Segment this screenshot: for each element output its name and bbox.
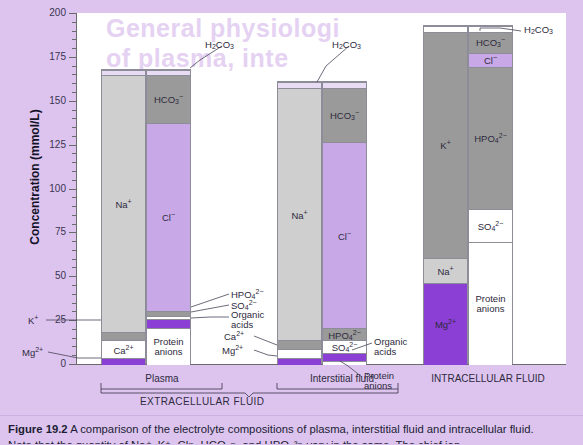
y-tick-label: 200 <box>26 7 66 18</box>
segment-mg <box>278 358 321 365</box>
y-axis-title: Concentration (mmol/L) <box>28 57 42 297</box>
segment-cl: Cl− <box>147 123 190 311</box>
segment-hco <box>424 26 467 31</box>
y-tick-major <box>69 145 77 146</box>
callout-plasma-organic-acids: Organic acids <box>231 310 285 331</box>
y-tick-major <box>69 276 77 277</box>
segment-hpo: HPO42− <box>469 67 512 209</box>
bar-plasma-anions: ProteinanionsCl−HCO3− <box>146 69 191 364</box>
y-tick-minor <box>72 83 77 84</box>
y-tick-major <box>69 101 77 102</box>
callout-plasma-mg: Mg2+ <box>22 346 43 358</box>
y-tick-minor <box>72 355 77 356</box>
y-tick-major <box>69 320 77 321</box>
y-tick-minor <box>72 329 77 330</box>
segment-label: Na+ <box>437 265 453 277</box>
y-tick-minor <box>72 206 77 207</box>
segment-mg <box>102 358 145 365</box>
y-tick-minor <box>72 259 77 260</box>
y-tick-major <box>69 232 77 233</box>
y-tick-minor <box>72 66 77 67</box>
segment-proteinanions: Proteinanions <box>147 328 190 365</box>
segment-cl: Cl− <box>323 142 366 328</box>
figure-19-2: General physiologi of plasma, inte pl 02… <box>0 0 583 410</box>
y-tick-minor <box>72 285 77 286</box>
segment-label: SO42− <box>478 220 504 232</box>
segment-label: HPO42− <box>474 132 507 144</box>
segment-proteinanions <box>323 361 366 365</box>
callout-isf-h2co3: H2CO3 <box>332 40 361 51</box>
callout-plasma-k: K+ <box>28 314 38 326</box>
segment-hco: HCO3− <box>323 88 366 142</box>
y-tick-major <box>69 364 77 365</box>
y-tick-minor <box>72 136 77 137</box>
segment-hco <box>278 82 321 87</box>
y-tick-major <box>69 13 77 14</box>
segment-hpo <box>147 311 190 316</box>
segment-hco <box>102 70 145 75</box>
callout-icf-h2co3: H2CO3 <box>524 25 553 36</box>
segment-label: Na+ <box>115 198 131 210</box>
segment-label: Mg2+ <box>435 318 456 330</box>
group-label-extracellular: EXTRACELLULAR FLUID <box>140 396 264 407</box>
segment-so: SO42− <box>323 340 366 352</box>
segment-na: Na+ <box>424 258 467 283</box>
segment-ca: Ca2+ <box>102 340 145 358</box>
y-tick-minor <box>72 180 77 181</box>
y-tick-minor <box>72 215 77 216</box>
segment-label: Na+ <box>291 209 307 221</box>
y-tick-minor <box>72 74 77 75</box>
segment-label: Ca2+ <box>113 344 133 356</box>
y-tick-major <box>69 189 77 190</box>
y-tick-minor <box>72 197 77 198</box>
segment-hco: HCO3− <box>469 32 512 53</box>
segment-cl: Cl− <box>469 53 512 67</box>
callout-isf-organic-acids: Organic acids <box>374 337 428 358</box>
segment-organicacids <box>323 353 366 362</box>
bar-interstitial-fluid-anions: SO42−HPO42−Cl−HCO3− <box>322 81 367 364</box>
y-tick-minor <box>72 303 77 304</box>
callout-isf-ca: Ca2+ <box>224 330 244 342</box>
y-tick-label: 0 <box>26 358 66 369</box>
caption-divider <box>0 415 583 416</box>
y-tick-minor <box>72 48 77 49</box>
y-tick-minor <box>72 22 77 23</box>
callout-isf-mg: Mg2+ <box>222 344 243 356</box>
segment-label: HCO3− <box>154 93 183 105</box>
segment-label: Cl− <box>162 211 175 223</box>
y-tick-minor <box>72 311 77 312</box>
segment-label: HCO3− <box>330 109 359 121</box>
y-tick-minor <box>72 346 77 347</box>
segment-na: Na+ <box>102 75 145 331</box>
segment-hco: HCO3− <box>147 75 190 122</box>
callout-plasma-h2co3: H2CO3 <box>205 40 234 51</box>
segment-na: Na+ <box>278 88 321 341</box>
segment-label: HCO3− <box>476 36 505 48</box>
y-tick-minor <box>72 110 77 111</box>
segment-ca <box>278 349 321 358</box>
y-tick-minor <box>72 224 77 225</box>
segment-label: K+ <box>440 139 450 151</box>
segment-proteinanions: Proteinanions <box>469 242 512 365</box>
caption-second-line: Note that the quantity of Na⁺, K⁺, Cl⁻, … <box>8 437 578 444</box>
caption-text: A comparison of the electrolyte composit… <box>70 423 533 435</box>
y-tick-major <box>69 57 77 58</box>
segment-label: Cl− <box>484 54 497 66</box>
y-tick-minor <box>72 250 77 251</box>
group-label-interstitial: Interstitial fluid <box>297 373 387 384</box>
figure-caption: Figure 19.2 A comparison of the electrol… <box>8 421 578 444</box>
y-tick-minor <box>72 241 77 242</box>
bar-intracellular-fluid-anions: ProteinanionsSO42−HPO42−Cl−HCO3− <box>468 25 513 364</box>
segment-hco <box>323 82 366 87</box>
y-tick-minor <box>72 31 77 32</box>
y-tick-minor <box>72 294 77 295</box>
bar-intracellular-fluid-cations: Mg2+Na+K+ <box>423 25 468 364</box>
y-tick-minor <box>72 118 77 119</box>
segment-label: Proteinanions <box>475 294 505 314</box>
segment-label: SO42− <box>332 341 358 353</box>
group-label-plasma: Plasma <box>132 373 192 384</box>
y-tick-minor <box>72 267 77 268</box>
segment-mg: Mg2+ <box>424 283 467 365</box>
y-tick-minor <box>72 92 77 93</box>
segment-k: K+ <box>424 32 467 258</box>
